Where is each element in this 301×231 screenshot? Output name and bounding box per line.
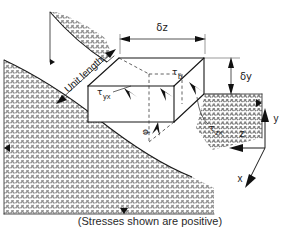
stress-element-diagram: δz δy Unit length τ yx τ b [0, 0, 301, 231]
tau-yx-symbol: τ [97, 87, 102, 97]
delta-y-arrow-top-icon [228, 57, 234, 68]
tau-zx-symbol: τ [209, 123, 214, 133]
element-hidden-edge-base [149, 122, 174, 142]
x-axis-label: x [238, 173, 243, 184]
delta-y-arrow-bottom-icon [228, 84, 234, 95]
tau-yx-subscript: yx [103, 92, 111, 101]
delta-z-arrow-right-icon [195, 36, 206, 42]
delta-z-arrow-left-icon [119, 36, 130, 42]
x-axis-line [250, 148, 265, 178]
tau-b-subscript: b [178, 72, 182, 81]
label-phi: φ [140, 129, 150, 135]
delta-y-label: δy [240, 71, 252, 82]
diagram-canvas: δz δy Unit length τ yx τ b [0, 0, 301, 231]
upper-soil-wedge [50, 12, 114, 65]
x-axis-arrow-icon [245, 174, 256, 188]
upper-soil-fill [50, 12, 112, 60]
y-axis-label: y [274, 113, 279, 124]
z-axis-label: z [240, 128, 245, 139]
tau-zx-subscript: zx [215, 128, 223, 137]
phi-symbol: φ [140, 129, 150, 135]
tau-b-symbol: τ [172, 67, 177, 77]
dimension-delta-z: δz [119, 22, 206, 54]
dimension-delta-y: δy [205, 57, 252, 95]
figure-caption: (Stresses shown are positive) [78, 215, 222, 227]
delta-z-label: δz [156, 22, 167, 33]
upper-soil-notch-icon [50, 59, 55, 65]
